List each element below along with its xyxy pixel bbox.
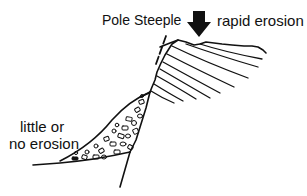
no-erosion-label: no erosion <box>9 136 79 151</box>
rapid-erosion-label: rapid erosion <box>217 13 304 28</box>
scree-boulders <box>72 95 145 161</box>
bedrock-slope-line <box>120 152 130 187</box>
erosion-diagram: Pole Steeple rapid erosion little or no … <box>0 0 307 196</box>
little-or-label: little or <box>20 119 64 134</box>
rock-strata <box>151 44 262 103</box>
pole-steeple-label: Pole Steeple <box>102 13 181 27</box>
diagram-drawing <box>0 0 307 196</box>
down-arrow-icon <box>187 11 211 37</box>
pole-steeple-line <box>156 36 166 64</box>
